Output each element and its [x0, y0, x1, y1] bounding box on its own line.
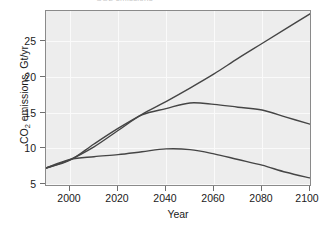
plot-area — [45, 10, 311, 186]
series-line-high-growth — [46, 14, 310, 168]
y-axis-title-rest: emissions, Gt/yr — [18, 46, 30, 124]
x-tick-mark — [165, 186, 166, 191]
y-axis-title-subscript: 2 — [23, 124, 32, 128]
x-tick-mark — [213, 186, 214, 191]
gridline-vertical — [310, 11, 311, 185]
y-tick-mark — [40, 147, 45, 148]
x-tick-label: 2080 — [239, 192, 283, 204]
x-tick-label: 2060 — [191, 192, 235, 204]
x-tick-mark — [261, 186, 262, 191]
y-axis-title-main: CO — [18, 128, 30, 144]
x-tick-label: 2040 — [143, 192, 187, 204]
x-tick-mark — [69, 186, 70, 191]
series-line-stabilization — [46, 103, 310, 168]
y-tick-label: 5 — [0, 178, 36, 190]
y-tick-mark — [40, 183, 45, 184]
y-tick-mark — [40, 40, 45, 41]
y-tick-mark — [40, 112, 45, 113]
x-tick-mark — [309, 186, 310, 191]
x-axis-title: Year — [45, 208, 311, 220]
y-axis-title: CO2 emissions, Gt/yr — [18, 15, 30, 175]
x-tick-label: 2000 — [47, 192, 91, 204]
series-lines — [46, 11, 310, 185]
chart-title-clipped: CO2 emissions — [96, 0, 256, 4]
y-tick-mark — [40, 76, 45, 77]
series-line-mitigation — [46, 149, 310, 178]
co2-emissions-chart: CO2 emissions 5 10 15 20 25 2000 2020 20… — [0, 0, 330, 228]
x-tick-label: 2100 — [285, 192, 329, 204]
x-tick-label: 2020 — [95, 192, 139, 204]
x-tick-mark — [117, 186, 118, 191]
